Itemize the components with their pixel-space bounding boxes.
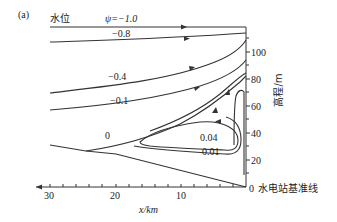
- y-tick-40: 40: [251, 128, 261, 139]
- y-axis-ticks: [246, 38, 250, 173]
- contour-label-m0-4: −0.4: [108, 71, 126, 82]
- y-tick-20: 20: [251, 155, 261, 166]
- contour-label-0-01: 0.01: [202, 146, 220, 157]
- contour-label-m0-8: −0.8: [112, 28, 130, 39]
- panel-label: (a): [18, 9, 29, 21]
- flow-arrow-icon: [212, 107, 218, 113]
- contour-label-m0-1: −0.1: [110, 95, 128, 106]
- flow-arrow-icon: [194, 87, 200, 91]
- contour-label-0-04: 0.04: [200, 132, 218, 143]
- x-tick-20: 20: [110, 190, 120, 201]
- y-axis-label: 高程/m: [272, 73, 284, 106]
- contour-psi-0-upper: [86, 76, 246, 151]
- y-tick-100: 100: [251, 47, 266, 58]
- flow-arrow-icon: [225, 89, 230, 95]
- y-tick-60: 60: [251, 101, 261, 112]
- y-tick-80: 80: [251, 74, 261, 85]
- x-tick-30: 30: [44, 190, 54, 201]
- baseline-label: 水电站基准线: [258, 182, 318, 194]
- x-axis-label: x/km: [138, 204, 158, 215]
- flow-arrow-icon: [181, 25, 187, 30]
- flow-arrow-icon: [184, 37, 190, 42]
- contour-psi-m0-1: [50, 60, 246, 110]
- x-tick-10: 10: [176, 190, 186, 201]
- water-level-label: 水位: [50, 12, 70, 24]
- psi-label: ψ=−1.0: [105, 13, 137, 24]
- x-tick-0: 0: [249, 183, 254, 194]
- contour-psi-0-left: [50, 145, 86, 151]
- contour-psi-m0-8: [50, 33, 246, 42]
- contour-label-0: 0: [105, 130, 110, 141]
- x-axis-arrow-icon: [36, 185, 42, 190]
- streamfunction-diagram: (a) 水位 ψ=−1.0 −0.8 −0.4 −0.1 0: [0, 0, 337, 222]
- contour-psi-0-04: [140, 122, 238, 150]
- contour-psi-m0-4: [50, 40, 246, 93]
- contour-psi-0-lower: [86, 151, 246, 187]
